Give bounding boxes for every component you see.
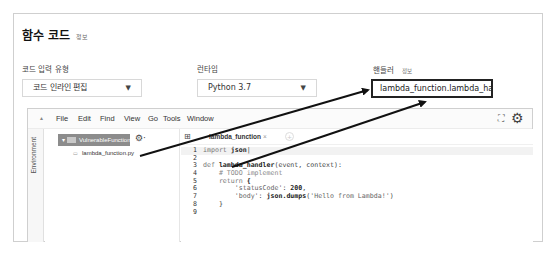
fullscreen-icon[interactable]: ⛶ (498, 113, 504, 124)
runtime-value: Python 3.7 (208, 83, 251, 92)
new-tab-button[interactable]: + (285, 132, 294, 141)
menu-go[interactable]: Go (148, 114, 158, 123)
file-tree: ▾VulnerableFunction ⚙· ▭lambda_function.… (45, 129, 180, 242)
collapse-caret-icon[interactable]: ▲ (39, 115, 44, 121)
menu-window[interactable]: Window (187, 114, 214, 123)
menu-view[interactable]: View (124, 114, 140, 123)
menu-file[interactable]: File (56, 114, 68, 123)
handler-input[interactable]: lambda_function.lambda_handl (371, 79, 493, 98)
handler-info-link[interactable]: 정보 (402, 68, 412, 74)
code-entry-type-select[interactable]: 코드 인라인 편집 ▼ (22, 79, 142, 97)
code-text: 'body': json.dumps('Hello from Lambda!') (203, 193, 394, 201)
code-area[interactable]: 1import json| 2 3def lambda_handler(even… (181, 147, 533, 216)
code-editor[interactable]: ⊞ lambda_function× + 1import json| 2 3de… (181, 129, 533, 242)
tab-label: lambda_function (209, 133, 261, 140)
cloud9-editor: ▲ File Edit Find View Go Tools Window ⛶ … (27, 108, 533, 242)
menu-tools[interactable]: Tools (163, 114, 181, 123)
close-tab-icon[interactable]: × (263, 133, 267, 140)
code-entry-type-label: 코드 입력 유형 (22, 63, 69, 74)
tab-list-icon[interactable]: ⊞ (184, 132, 191, 141)
info-link[interactable]: 정보 (76, 33, 88, 40)
file-lambda-function-py[interactable]: ▭lambda_function.py (73, 150, 134, 156)
code-entry-type-value: 코드 인라인 편집 (33, 83, 87, 92)
handler-label-text: 핸들러 (373, 66, 394, 75)
tree-gear-icon[interactable]: ⚙· (135, 133, 146, 143)
folder-vulnerable-function[interactable]: ▾VulnerableFunction (58, 134, 130, 146)
runtime-select[interactable]: Python 3.7 ▼ (197, 79, 317, 97)
menu-find[interactable]: Find (100, 114, 115, 123)
runtime-label: 런타임 (197, 63, 218, 74)
menu-edit[interactable]: Edit (78, 114, 91, 123)
editor-tabbar: ⊞ lambda_function× + (181, 129, 533, 145)
code-text: } (203, 201, 223, 209)
dropdown-arrow-icon: ▼ (301, 80, 306, 96)
handler-label: 핸들러정보 (373, 64, 412, 75)
folder-name: VulnerableFunction (79, 137, 130, 143)
section-title-text: 함수 코드 (22, 29, 70, 43)
folder-icon (67, 137, 76, 143)
code-line: 7 'body': json.dumps('Hello from Lambda!… (181, 193, 533, 201)
code-line: 1import json| (181, 147, 533, 155)
environment-label: Environment (30, 137, 37, 174)
file-name: lambda_function.py (82, 150, 134, 156)
line-number: 9 (187, 209, 197, 217)
code-line: 9 (181, 209, 533, 217)
file-icon: ▭ (73, 150, 78, 156)
ide-menubar: ▲ File Edit Find View Go Tools Window ⛶ … (28, 109, 532, 129)
code-line: 8 } (181, 201, 533, 209)
gear-icon[interactable]: ⚙ (511, 110, 524, 126)
section-title: 함수 코드정보 (22, 26, 88, 43)
dropdown-arrow-icon: ▼ (126, 80, 131, 96)
code-text: import json| (203, 147, 251, 155)
environment-tab[interactable]: Environment (28, 129, 44, 242)
tab-lambda-function[interactable]: lambda_function× (209, 133, 267, 140)
